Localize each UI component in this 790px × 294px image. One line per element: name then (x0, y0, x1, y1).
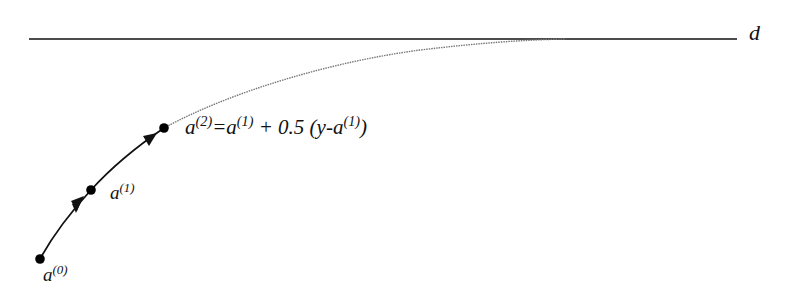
eq-lhs-base: a (185, 115, 196, 139)
eq-term2-sup: (1) (343, 113, 360, 129)
label-a0: a(0) (43, 264, 68, 284)
label-a0-base: a (43, 264, 53, 285)
arrowhead-icon (143, 133, 157, 146)
eq-plus-coeff: + 0.5 (y- (253, 115, 332, 139)
arrowhead-icon (71, 196, 84, 211)
point-a0 (35, 254, 45, 264)
label-a1-base: a (110, 182, 120, 203)
label-d: d (749, 22, 760, 44)
point-a1 (86, 185, 96, 195)
update-rule-label: a(2)=a(1) + 0.5 (y-a(1)) (185, 114, 367, 138)
point-a2 (159, 123, 169, 133)
eq-equals: = (212, 115, 226, 139)
diagram-canvas (0, 0, 790, 294)
label-a0-sup: (0) (53, 262, 68, 277)
eq-close-paren: ) (360, 115, 367, 139)
label-d-text: d (749, 20, 760, 45)
label-a1: a(1) (110, 182, 135, 202)
label-a1-sup: (1) (120, 180, 135, 195)
eq-term1-sup: (1) (237, 113, 254, 129)
eq-term2-base: a (333, 115, 344, 139)
eq-lhs-sup: (2) (196, 113, 213, 129)
eq-term1-base: a (226, 115, 237, 139)
step-segment-a0-a1 (40, 190, 91, 259)
